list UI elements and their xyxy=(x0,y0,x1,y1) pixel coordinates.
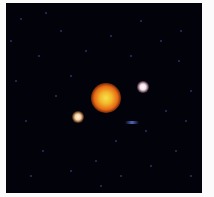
star-field-image xyxy=(6,3,202,193)
background-star-speck xyxy=(55,95,57,97)
background-star-speck xyxy=(110,35,112,37)
background-star-speck xyxy=(10,40,12,42)
background-star-speck xyxy=(180,30,182,32)
white-star-right xyxy=(137,81,149,93)
background-star-speck xyxy=(95,160,97,162)
background-star-speck xyxy=(150,165,152,167)
background-star-speck xyxy=(190,175,192,177)
background-star-speck xyxy=(70,170,72,172)
background-star-speck xyxy=(160,40,162,42)
background-star-speck xyxy=(38,55,40,57)
background-star-speck xyxy=(140,20,142,22)
background-star-speck xyxy=(115,140,117,142)
background-star-speck xyxy=(185,120,187,122)
background-star-speck xyxy=(165,110,167,112)
background-star-speck xyxy=(15,80,17,82)
background-star-speck xyxy=(25,120,27,122)
background-star-speck xyxy=(20,18,22,20)
warm-star-left xyxy=(72,111,84,123)
background-star-speck xyxy=(130,55,132,57)
background-star-speck xyxy=(70,75,72,77)
background-star-speck xyxy=(190,90,192,92)
background-star-speck xyxy=(178,60,180,62)
background-star-speck xyxy=(45,12,47,14)
background-star-speck xyxy=(85,50,87,52)
background-star-speck xyxy=(60,30,62,32)
background-star-speck xyxy=(145,130,147,132)
central-orange-star xyxy=(91,83,121,113)
background-star-speck xyxy=(100,185,102,187)
faint-blue-streak xyxy=(125,121,139,124)
background-star-speck xyxy=(175,150,177,152)
background-star-speck xyxy=(120,175,122,177)
background-star-speck xyxy=(30,175,32,177)
background-star-speck xyxy=(42,150,44,152)
